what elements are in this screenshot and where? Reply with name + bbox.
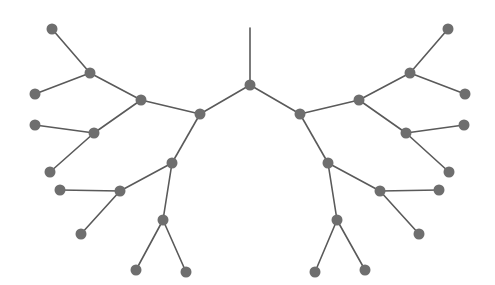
tree-edge [315, 220, 337, 272]
tree-edge [406, 125, 464, 133]
tree-edge [410, 29, 448, 73]
tree-node-l4b1 [30, 120, 41, 131]
tree-edge [35, 125, 94, 133]
tree-node-r2a [354, 95, 365, 106]
tree-node-l1 [195, 109, 206, 120]
tree-edge [52, 29, 90, 73]
tree-edge [136, 220, 163, 270]
tree-node-r4b1 [459, 120, 470, 131]
tree-edge [250, 85, 300, 114]
tree-edge [172, 114, 200, 163]
tree-edge [200, 85, 250, 114]
tree-node-l4d2 [181, 267, 192, 278]
tree-edge [328, 163, 380, 191]
tree-node-r4a1 [443, 24, 454, 35]
tree-edge [163, 163, 172, 220]
tree-node-l4c1 [55, 185, 66, 196]
tree-node-l3d [158, 215, 169, 226]
tree-edge [94, 100, 141, 133]
tree-edge [406, 133, 449, 172]
tree-node-r3c [375, 186, 386, 197]
tree-node-l4c2 [76, 229, 87, 240]
tree-edge [81, 191, 120, 234]
tree-edge [35, 73, 90, 94]
tree-edge [337, 220, 365, 270]
tree-edge [359, 73, 410, 100]
tree-node-r4d1 [310, 267, 321, 278]
tree-node-l2b [167, 158, 178, 169]
tree-node-l4a1 [47, 24, 58, 35]
tree-edge [60, 190, 120, 191]
tree-node-r4d2 [360, 265, 371, 276]
tree-node-r3a [405, 68, 416, 79]
tree-node-r4c1 [434, 185, 445, 196]
tree-node-l4b2 [45, 167, 56, 178]
tree-edge [300, 100, 359, 114]
tree-edge [328, 163, 337, 220]
tree-edge [380, 190, 439, 191]
tree-edge [90, 73, 141, 100]
tree-diagram [0, 0, 495, 285]
tree-node-root [245, 80, 256, 91]
tree-node-l3a [85, 68, 96, 79]
tree-edge [50, 133, 94, 172]
tree-node-r4a2 [460, 89, 471, 100]
tree-node-r3d [332, 215, 343, 226]
tree-node-l3c [115, 186, 126, 197]
tree-node-r1 [295, 109, 306, 120]
tree-edge [380, 191, 419, 234]
tree-node-l3b [89, 128, 100, 139]
tree-node-r3b [401, 128, 412, 139]
tree-svg [0, 0, 495, 285]
tree-edge [410, 73, 465, 94]
tree-node-l4d1 [131, 265, 142, 276]
tree-node-r2b [323, 158, 334, 169]
tree-edge [359, 100, 406, 133]
tree-edge [120, 163, 172, 191]
tree-node-r4c2 [414, 229, 425, 240]
tree-node-l4a2 [30, 89, 41, 100]
tree-edges [35, 28, 465, 272]
tree-edge [141, 100, 200, 114]
tree-node-r4b2 [444, 167, 455, 178]
tree-edge [163, 220, 186, 272]
tree-edge [300, 114, 328, 163]
tree-node-l2a [136, 95, 147, 106]
